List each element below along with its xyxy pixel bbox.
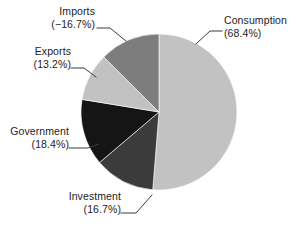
pie-chart-figure: Consumption (68.4%) Imports (−16.7%) Exp… <box>0 0 307 228</box>
slice-label-imports-value: (−16.7%) <box>51 18 95 31</box>
pie-slices-group <box>81 34 237 190</box>
leader-line-investment <box>121 195 152 213</box>
slice-label-exports: Exports (13.2%) <box>34 45 71 70</box>
pie-slice-consumption[interactable] <box>153 34 237 190</box>
slice-label-consumption: Consumption (68.4%) <box>224 14 287 39</box>
slice-label-government-value: (18.4%) <box>10 138 69 151</box>
slice-label-exports-name: Exports <box>34 45 71 58</box>
slice-label-investment-name: Investment <box>69 190 121 203</box>
slice-label-exports-value: (13.2%) <box>34 58 71 71</box>
slice-label-government: Government (18.4%) <box>10 125 69 150</box>
slice-label-imports: Imports (−16.7%) <box>51 5 95 30</box>
slice-label-investment-value: (16.7%) <box>69 203 121 216</box>
slice-label-consumption-name: Consumption <box>224 14 287 27</box>
leader-line-imports <box>97 28 126 41</box>
leader-line-consumption <box>196 31 222 44</box>
slice-label-imports-name: Imports <box>51 5 95 18</box>
slice-label-consumption-value: (68.4%) <box>224 27 287 40</box>
slice-label-government-name: Government <box>10 125 69 138</box>
slice-label-investment: Investment (16.7%) <box>69 190 121 215</box>
